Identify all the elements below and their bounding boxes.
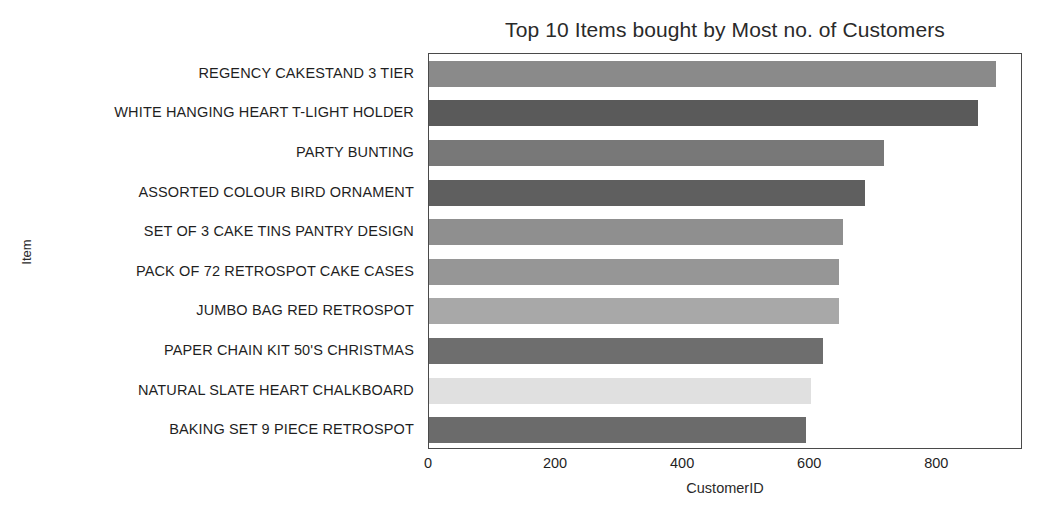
- x-tick-label: 200: [543, 455, 567, 471]
- bar: [429, 417, 806, 443]
- y-tick-label: REGENCY CAKESTAND 3 TIER: [198, 65, 414, 81]
- x-tick-label: 400: [670, 455, 694, 471]
- x-tick-label: 600: [797, 455, 821, 471]
- bar: [429, 61, 996, 87]
- y-tick-label: BAKING SET 9 PIECE RETROSPOT: [169, 421, 414, 437]
- x-axis-title: CustomerID: [428, 480, 1022, 496]
- bar: [429, 180, 865, 206]
- y-tick-label: JUMBO BAG RED RETROSPOT: [196, 302, 414, 318]
- y-tick-label: PAPER CHAIN KIT 50'S CHRISTMAS: [164, 342, 414, 358]
- bar: [429, 100, 978, 126]
- plot-area: [428, 53, 1022, 449]
- bar: [429, 338, 823, 364]
- y-tick-label: WHITE HANGING HEART T-LIGHT HOLDER: [114, 104, 414, 120]
- y-tick-label: NATURAL SLATE HEART CHALKBOARD: [138, 382, 414, 398]
- y-tick-label: PARTY BUNTING: [296, 144, 414, 160]
- bar: [429, 259, 839, 285]
- y-tick-label: PACK OF 72 RETROSPOT CAKE CASES: [136, 263, 414, 279]
- y-tick-label: SET OF 3 CAKE TINS PANTRY DESIGN: [144, 223, 414, 239]
- bar: [429, 378, 811, 404]
- y-axis-tick-labels: REGENCY CAKESTAND 3 TIERWHITE HANGING HE…: [40, 53, 422, 449]
- bar: [429, 219, 843, 245]
- bar: [429, 140, 884, 166]
- chart-title: Top 10 Items bought by Most no. of Custo…: [428, 18, 1022, 42]
- bar: [429, 298, 839, 324]
- x-tick-label: 800: [924, 455, 948, 471]
- y-tick-label: ASSORTED COLOUR BIRD ORNAMENT: [138, 184, 414, 200]
- bar-chart: Top 10 Items bought by Most no. of Custo…: [0, 0, 1059, 527]
- y-axis-title: Item: [19, 226, 34, 278]
- x-tick-label: 0: [424, 455, 432, 471]
- x-axis-tick-labels: 0200400600800: [428, 455, 1022, 477]
